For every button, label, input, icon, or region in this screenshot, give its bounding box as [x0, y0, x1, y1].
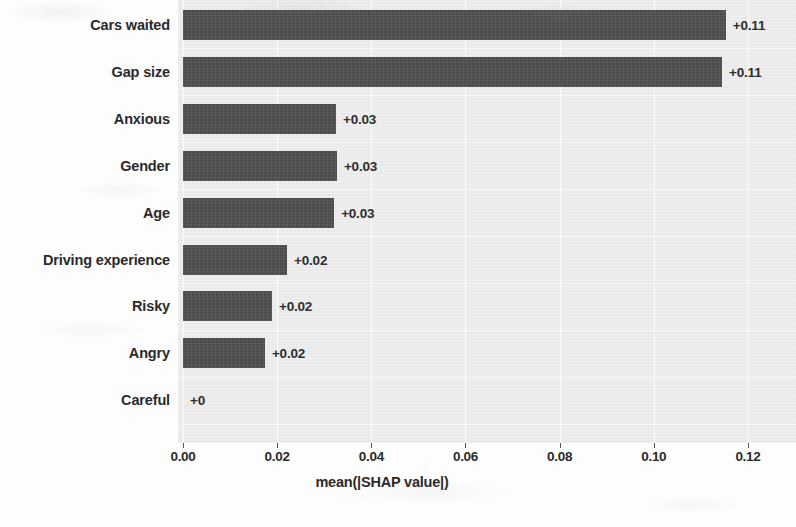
- bar-value-label: +0.03: [343, 111, 376, 126]
- x-axis-title: mean(|SHAP value|): [0, 474, 796, 490]
- x-tick-mark: [183, 443, 184, 448]
- bar-value-label: +0.02: [279, 299, 312, 314]
- x-tick-label: 0.08: [547, 449, 572, 464]
- x-tick-mark: [748, 443, 749, 448]
- x-axis: 0.000.020.040.060.080.100.12 mean(|SHAP …: [0, 443, 796, 527]
- x-tick-label: 0.04: [359, 449, 384, 464]
- x-tick-mark: [654, 443, 655, 448]
- x-tick-label: 0.02: [265, 449, 290, 464]
- bar-value-label: +0.11: [733, 18, 765, 33]
- x-tick-mark: [277, 443, 278, 448]
- bar-value-label: +0.02: [294, 252, 327, 267]
- bar-value-label: +0.02: [272, 346, 305, 361]
- x-tick-label: 0.12: [735, 449, 760, 464]
- bar-value-label: +0.11: [729, 64, 761, 79]
- x-tick-label: 0.10: [641, 449, 666, 464]
- bar-value-label: +0.03: [341, 205, 374, 220]
- x-axis-title-text: mean(|SHAP value|): [315, 474, 448, 490]
- bar-value-label: +0: [190, 393, 205, 408]
- shap-feature-importance-chart: +0.11+0.11+0.03+0.03+0.03+0.02+0.02+0.02…: [0, 0, 796, 527]
- bar-value-label: +0.03: [344, 158, 377, 173]
- x-tick-mark: [560, 443, 561, 448]
- x-tick-mark: [371, 443, 372, 448]
- x-tick-label: 0.06: [453, 449, 478, 464]
- x-tick-label: 0.00: [170, 449, 195, 464]
- x-tick-mark: [465, 443, 466, 448]
- bar-value-labels: +0.11+0.11+0.03+0.03+0.03+0.02+0.02+0.02…: [0, 0, 796, 443]
